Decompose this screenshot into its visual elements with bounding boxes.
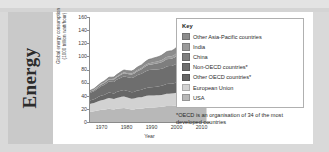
y-axis-line (89, 17, 90, 122)
legend-item-label: Other Asia-Pacific countries (193, 34, 262, 40)
legend-title: Key (182, 23, 299, 29)
legend: Key Other Asia-Pacific countriesIndiaChi… (176, 18, 304, 108)
y-axis-tick-label: 140 (78, 27, 87, 33)
legend-swatch-icon (182, 63, 190, 71)
legend-item[interactable]: Non-OECD countries* (182, 62, 299, 72)
legend-item-label: USA (193, 95, 205, 101)
legend-item[interactable]: European Union (182, 82, 299, 92)
legend-item[interactable]: Other OECD countries* (182, 72, 299, 82)
legend-swatch-icon (182, 74, 190, 82)
x-axis-tick-label: 1980 (121, 124, 133, 130)
content-card: Energy Global energy consumption (1000 t… (8, 12, 313, 144)
legend-item-label: China (193, 54, 208, 60)
legend-swatch-icon (182, 94, 190, 102)
legend-item[interactable]: India (182, 42, 299, 52)
y-axis-ticks: 020406080100120140160 (63, 12, 87, 124)
legend-item[interactable]: USA (182, 93, 299, 103)
y-axis-tick-label: 120 (78, 40, 87, 46)
x-axis-tick-label: 1990 (146, 124, 158, 130)
y-axis-label-line1: Global energy consumption (56, 8, 61, 64)
legend-item[interactable]: Other Asia-Pacific countries (182, 32, 299, 42)
legend-footnote: *OECD is an organisation of 34 of the mo… (176, 112, 306, 127)
legend-swatch-icon (182, 33, 190, 41)
page-root: Energy Global energy consumption (1000 t… (0, 0, 329, 152)
legend-swatch-icon (182, 84, 190, 92)
legend-item-label: India (193, 44, 205, 50)
x-axis-tick-label: 1970 (96, 124, 108, 130)
legend-items: Other Asia-Pacific countriesIndiaChinaNo… (182, 32, 299, 103)
y-axis-tick-label: 100 (78, 53, 87, 59)
legend-item-label: Non-OECD countries* (193, 64, 248, 70)
legend-item[interactable]: China (182, 52, 299, 62)
section-side-panel: Energy (8, 12, 53, 144)
legend-swatch-icon (182, 43, 190, 51)
legend-item-label: European Union (193, 85, 233, 91)
page-top-band (0, 0, 329, 8)
section-title: Energy (8, 12, 52, 144)
y-axis-tick-label: 160 (78, 14, 87, 20)
x-axis-label: Year (89, 133, 210, 139)
legend-swatch-icon (182, 53, 190, 61)
legend-item-label: Other OECD countries* (193, 74, 251, 80)
